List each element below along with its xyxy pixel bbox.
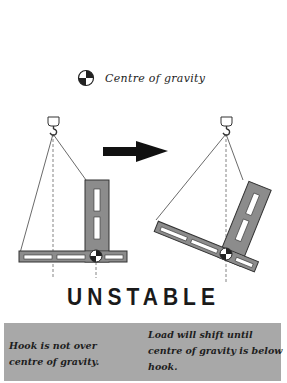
after-scene	[154, 117, 285, 282]
sling-right	[53, 134, 86, 180]
lifting-diagram	[0, 0, 287, 290]
before-scene	[19, 117, 127, 278]
sling-left	[156, 134, 226, 220]
arrow-right-icon	[103, 141, 168, 162]
note-right: Load will shift until centre of gravity …	[148, 327, 283, 375]
crane-hook-icon	[221, 117, 232, 135]
diagram-title: UNSTABLE	[0, 283, 287, 311]
note-left: Hook is not over centre of gravity.	[9, 338, 129, 370]
load	[19, 180, 127, 262]
crane-hook-icon	[48, 117, 59, 135]
centre-of-gravity-icon	[90, 250, 102, 262]
sling-right	[226, 134, 243, 180]
sling-left	[20, 134, 53, 253]
centre-of-gravity-icon	[220, 248, 232, 260]
